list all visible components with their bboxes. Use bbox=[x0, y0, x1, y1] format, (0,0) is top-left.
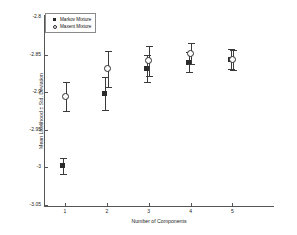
x-tick-label: 4 bbox=[181, 209, 201, 214]
circle-marker-icon bbox=[49, 25, 60, 29]
chart-figure: -2.8-2.85-2.9-2.95-3-3.05 12345 Mean Lik… bbox=[0, 0, 297, 235]
x-tick-mark bbox=[191, 203, 192, 207]
y-axis-label-host: Mean Likelihood ± Std. Deviation bbox=[14, 15, 24, 207]
x-tick-mark bbox=[65, 203, 66, 207]
error-bar-cap bbox=[102, 110, 109, 111]
error-bar-cap bbox=[105, 87, 112, 88]
error-bar-cap bbox=[63, 111, 70, 112]
x-axis-line bbox=[44, 206, 274, 207]
y-tick-mark bbox=[44, 55, 48, 56]
legend-item-label: Markov Mixture bbox=[60, 16, 91, 23]
data-point-marker bbox=[102, 91, 107, 96]
y-tick-label: -2.8 bbox=[32, 14, 41, 19]
error-bar-cap bbox=[188, 64, 195, 65]
error-bar-cap bbox=[63, 82, 70, 83]
x-tick-label: 2 bbox=[97, 209, 117, 214]
y-axis-label: Mean Likelihood ± Std. Deviation bbox=[38, 46, 44, 176]
x-tick-label: 1 bbox=[55, 209, 75, 214]
x-axis-label: Number of Components bbox=[44, 218, 274, 224]
y-tick-mark bbox=[44, 205, 48, 206]
error-bar-cap bbox=[186, 72, 193, 73]
error-bar-cap bbox=[146, 46, 153, 47]
x-tick-label: 3 bbox=[139, 209, 159, 214]
y-tick-label: -3.05 bbox=[30, 202, 41, 207]
data-point-marker bbox=[62, 93, 69, 100]
error-bar-cap bbox=[60, 174, 67, 175]
legend-item: Markov Mixture bbox=[49, 16, 91, 23]
error-bar-cap bbox=[188, 43, 195, 44]
x-tick-mark bbox=[149, 203, 150, 207]
error-bar-cap bbox=[230, 50, 237, 51]
error-bar-cap bbox=[144, 82, 151, 83]
data-point-marker bbox=[104, 65, 111, 72]
x-tick-label: 5 bbox=[222, 209, 242, 214]
x-tick-mark bbox=[107, 203, 108, 207]
error-bar-cap bbox=[230, 70, 237, 71]
legend-item-label: Maxent Mixture bbox=[60, 23, 91, 30]
data-point-marker bbox=[60, 163, 65, 168]
y-tick-mark bbox=[44, 130, 48, 131]
error-bar-cap bbox=[105, 51, 112, 52]
plot-area bbox=[44, 17, 266, 205]
legend-item: Maxent Mixture bbox=[49, 23, 91, 30]
error-bar-cap bbox=[60, 158, 67, 159]
y-tick-mark bbox=[44, 92, 48, 93]
square-marker-icon bbox=[49, 18, 60, 21]
chart-legend: Markov MixtureMaxent Mixture bbox=[45, 13, 96, 33]
data-point-marker bbox=[144, 66, 149, 71]
y-axis-line bbox=[44, 15, 45, 207]
y-tick-mark bbox=[44, 167, 48, 168]
x-tick-mark bbox=[232, 203, 233, 207]
error-bar-cap bbox=[146, 76, 153, 77]
